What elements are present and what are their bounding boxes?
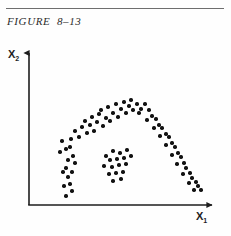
scatter-point bbox=[194, 180, 197, 183]
scatter-point bbox=[88, 123, 91, 126]
scatter-point bbox=[160, 126, 163, 129]
scatter-point bbox=[147, 108, 150, 111]
scatter-point bbox=[118, 151, 121, 154]
scatter-point bbox=[175, 162, 178, 165]
scatter-point bbox=[184, 166, 187, 169]
scatter-point bbox=[73, 161, 76, 164]
scatter-point bbox=[181, 172, 184, 175]
scatter-points-layer bbox=[0, 0, 231, 236]
scatter-point bbox=[104, 116, 107, 119]
scatter-point bbox=[152, 126, 155, 129]
scatter-point bbox=[122, 100, 125, 103]
scatter-point bbox=[73, 129, 76, 132]
scatter-point bbox=[139, 107, 142, 110]
scatter-point bbox=[173, 145, 176, 148]
scatter-point bbox=[70, 170, 73, 173]
scatter-point bbox=[102, 164, 105, 167]
scatter-point bbox=[154, 117, 157, 120]
scatter-point bbox=[104, 154, 107, 157]
scatter-point bbox=[68, 182, 71, 185]
scatter-point bbox=[92, 129, 95, 132]
scatter-point bbox=[131, 108, 134, 111]
scatter-point bbox=[80, 125, 83, 128]
scatter-point bbox=[83, 119, 86, 122]
scatter-point bbox=[108, 158, 111, 161]
scatter-point bbox=[85, 131, 88, 134]
scatter-point bbox=[64, 166, 67, 169]
scatter-point bbox=[66, 175, 69, 178]
scatter-point bbox=[97, 112, 100, 115]
scatter-point bbox=[77, 135, 80, 138]
scatter-point bbox=[125, 148, 128, 151]
scatter-point bbox=[145, 118, 148, 121]
scatter-point bbox=[115, 157, 118, 160]
scatter-point bbox=[182, 161, 185, 164]
scatter-point bbox=[188, 171, 191, 174]
scatter-point bbox=[192, 188, 195, 191]
scatter-point bbox=[106, 105, 109, 108]
scatter-point bbox=[117, 163, 120, 166]
scatter-point bbox=[199, 188, 202, 191]
scatter-point bbox=[124, 111, 127, 114]
scatter-point bbox=[116, 115, 119, 118]
scatter-point bbox=[187, 181, 190, 184]
scatter-point bbox=[60, 139, 63, 142]
scatter-point bbox=[110, 165, 113, 168]
scatter-point bbox=[101, 124, 104, 127]
scatter-point bbox=[111, 179, 114, 182]
scatter-point bbox=[121, 170, 124, 173]
scatter-point bbox=[137, 111, 140, 114]
scatter-point bbox=[66, 158, 69, 161]
scatter-point bbox=[114, 102, 117, 105]
scatter-point bbox=[143, 102, 146, 105]
scatter-point bbox=[71, 154, 74, 157]
scatter-point bbox=[135, 102, 138, 105]
scatter-point bbox=[129, 154, 132, 157]
scatter-point bbox=[127, 104, 130, 107]
scatter-point bbox=[61, 170, 64, 173]
scatter-point bbox=[111, 149, 114, 152]
scatter-point bbox=[176, 151, 179, 154]
scatter-point bbox=[64, 147, 67, 150]
scatter-point bbox=[164, 143, 167, 146]
scatter-point bbox=[108, 119, 111, 122]
scatter-point bbox=[170, 141, 173, 144]
scatter-point bbox=[190, 176, 193, 179]
scatter-point bbox=[170, 153, 173, 156]
scatter-point bbox=[68, 145, 71, 148]
scatter-point bbox=[95, 120, 98, 123]
scatter-point bbox=[150, 114, 153, 117]
scatter-point bbox=[179, 155, 182, 158]
scatter-point bbox=[196, 184, 199, 187]
scatter-point bbox=[114, 171, 117, 174]
scatter-point bbox=[119, 107, 122, 110]
scatter-point bbox=[124, 162, 127, 165]
scatter-point bbox=[158, 134, 161, 137]
scatter-point bbox=[111, 111, 114, 114]
figure-page: FIGURE 8–13 X2 X1 bbox=[0, 0, 231, 236]
scatter-point bbox=[167, 135, 170, 138]
scatter-point bbox=[90, 115, 93, 118]
scatter-point bbox=[99, 108, 102, 111]
scatter-point bbox=[69, 137, 72, 140]
scatter-point bbox=[122, 156, 125, 159]
scatter-point bbox=[129, 98, 132, 101]
scatter-point bbox=[107, 172, 110, 175]
scatter-point bbox=[58, 150, 61, 153]
scatter-point bbox=[62, 184, 65, 187]
scatter-point bbox=[64, 194, 67, 197]
scatter-point bbox=[70, 189, 73, 192]
scatter-point bbox=[119, 177, 122, 180]
